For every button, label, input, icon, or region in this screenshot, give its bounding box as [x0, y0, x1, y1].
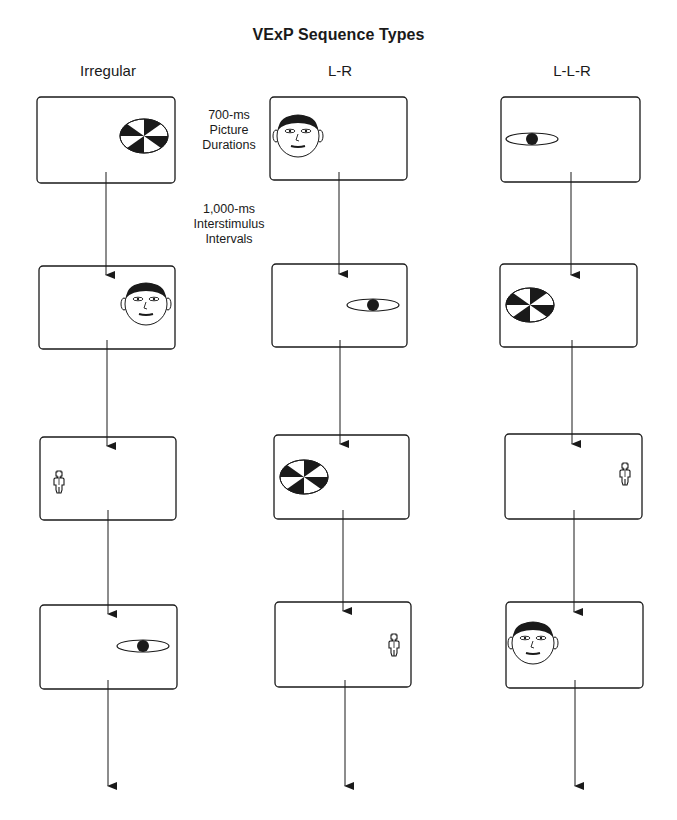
face-icon: [273, 115, 323, 157]
eye-icon: [347, 299, 399, 311]
eye-icon: [117, 640, 169, 652]
checkerboard-icon: [120, 119, 168, 153]
column-l-r: [270, 97, 411, 786]
face-icon: [508, 622, 558, 664]
figure-icon: [54, 471, 64, 493]
face-icon: [121, 283, 171, 325]
column-l-l-r: [500, 97, 643, 786]
column-irregular: [37, 97, 177, 786]
figure-icon: [620, 463, 630, 485]
sequence-diagram: [0, 0, 677, 820]
eye-icon: [506, 133, 558, 145]
figure-icon: [389, 634, 399, 656]
checkerboard-icon: [506, 288, 554, 322]
checkerboard-icon: [280, 460, 328, 494]
